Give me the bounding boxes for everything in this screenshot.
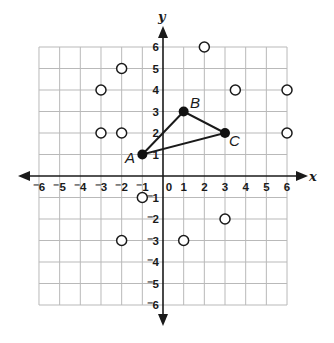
y-axis-down-arrow-icon bbox=[158, 314, 168, 326]
open-point bbox=[179, 236, 189, 246]
x-axis-label: x bbox=[308, 169, 317, 184]
y-tick-label: ⁻1 bbox=[147, 192, 160, 204]
x-tick-label: ⁻6 bbox=[33, 181, 45, 193]
x-axis-left-arrow-icon bbox=[18, 171, 30, 181]
x-tick-label: 0 bbox=[166, 181, 172, 193]
open-point bbox=[220, 214, 230, 224]
point-b bbox=[179, 107, 189, 117]
x-tick-label: ⁻5 bbox=[53, 181, 66, 193]
open-points bbox=[96, 42, 292, 246]
y-tick-label: 6 bbox=[153, 41, 159, 53]
x-tick-label: 6 bbox=[284, 181, 290, 193]
open-point bbox=[117, 236, 127, 246]
graph-svg: x y ⁻6⁻5⁻4⁻3⁻2⁻10123456654321⁻1⁻2⁻3⁻4⁻5⁻… bbox=[0, 0, 334, 343]
y-axis-label: y bbox=[157, 9, 167, 24]
point-a bbox=[137, 150, 147, 160]
open-point bbox=[230, 85, 240, 95]
point-label-b: B bbox=[190, 94, 200, 111]
x-tick-label: 5 bbox=[263, 181, 270, 193]
x-tick-label: 1 bbox=[180, 181, 187, 193]
y-axis-up-arrow-icon bbox=[158, 26, 168, 38]
y-tick-label: ⁻4 bbox=[147, 256, 160, 268]
open-point bbox=[117, 64, 127, 74]
point-label-c: C bbox=[229, 132, 240, 149]
x-tick-label: 4 bbox=[242, 181, 249, 193]
y-tick-label: ⁻6 bbox=[147, 299, 159, 311]
open-point bbox=[282, 85, 292, 95]
open-point bbox=[96, 85, 106, 95]
coordinate-plane: x y ⁻6⁻5⁻4⁻3⁻2⁻10123456654321⁻1⁻2⁻3⁻4⁻5⁻… bbox=[0, 0, 334, 343]
y-tick-label: 4 bbox=[153, 84, 160, 96]
open-point bbox=[199, 42, 209, 52]
x-tick-label: 2 bbox=[201, 181, 207, 193]
x-tick-label: ⁻2 bbox=[115, 181, 127, 193]
point-label-a: A bbox=[124, 149, 135, 166]
x-tick-label: ⁻4 bbox=[74, 181, 87, 193]
y-tick-label: 5 bbox=[153, 63, 160, 75]
y-tick-label: ⁻3 bbox=[147, 235, 159, 247]
open-point bbox=[137, 193, 147, 203]
open-point bbox=[282, 128, 292, 138]
x-axis-right-arrow-icon bbox=[296, 171, 308, 181]
axes: x y bbox=[18, 9, 317, 326]
open-point bbox=[117, 128, 127, 138]
y-tick-label: 3 bbox=[153, 106, 159, 118]
y-tick-label: ⁻5 bbox=[147, 278, 160, 290]
x-tick-label: ⁻3 bbox=[95, 181, 107, 193]
x-tick-label: 3 bbox=[222, 181, 228, 193]
y-tick-label: ⁻2 bbox=[147, 213, 159, 225]
open-point bbox=[96, 128, 106, 138]
